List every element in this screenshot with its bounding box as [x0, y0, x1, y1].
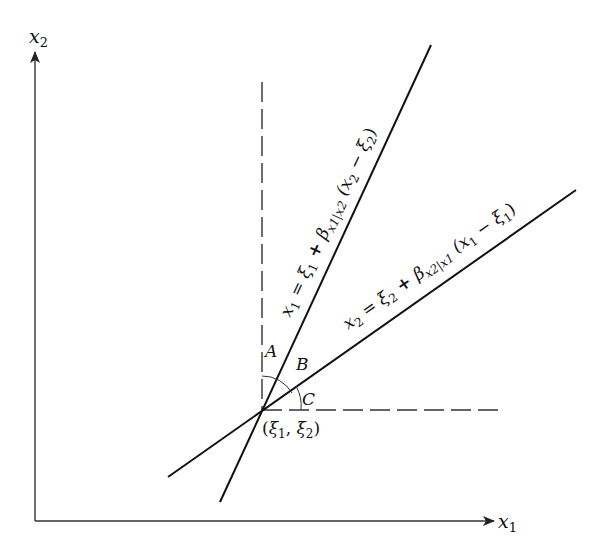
y-axis-label: x2	[29, 25, 48, 50]
svg-text:x1 = ξ1 + βx1|x2 (x2 − ξ2): x1 = ξ1 + βx1|x2 (x2 − ξ2)	[275, 124, 382, 321]
equation-line-1: x1 = ξ1 + βx1|x2 (x2 − ξ2)	[275, 124, 382, 321]
intersection-point-label: (ξ1, ξ2)	[262, 418, 320, 441]
x-axis-label: x1	[498, 510, 517, 535]
regression-lines-diagram: x2 x1 A B C (ξ1, ξ2) x1 = ξ1 + βx1|x2 (x…	[0, 0, 600, 552]
angle-label-C: C	[302, 389, 315, 409]
angle-label-B: B	[295, 354, 309, 374]
regression-line-x2-on-x1	[168, 190, 576, 477]
equation-line-2: x2 = ξ2 + βx2|x1 (x1 − ξ1)	[339, 198, 521, 335]
svg-text:x2 = ξ2 + βx2|x1 (x1 − ξ1): x2 = ξ2 + βx2|x1 (x1 − ξ1)	[339, 198, 521, 335]
angle-label-A: A	[263, 341, 277, 361]
axes: x2 x1	[29, 25, 517, 535]
angle-arc-C	[296, 386, 301, 410]
